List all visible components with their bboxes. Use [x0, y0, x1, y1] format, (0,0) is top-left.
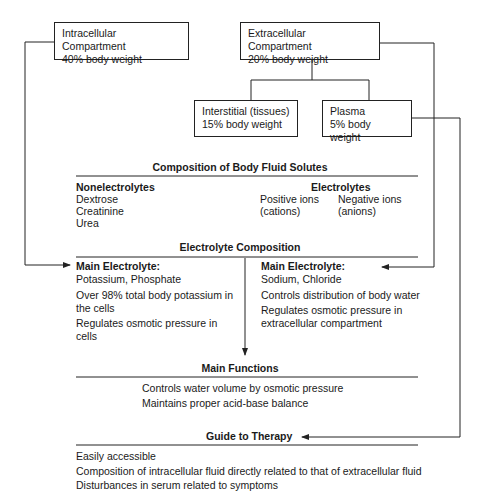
intracellular-main-electrolyte-value: Potassium, Phosphate	[76, 273, 181, 286]
main-function-item: Controls water volume by osmotic pressur…	[142, 382, 343, 395]
therapy-item: Easily accessible	[76, 450, 156, 463]
therapy-item: Disturbances in serum related to symptom…	[76, 479, 278, 492]
plasma-title: Plasma	[330, 105, 404, 118]
intracellular-note: cells	[76, 330, 97, 343]
solutes-heading: Composition of Body Fluid Solutes	[0, 161, 480, 173]
interstitial-subtitle: 15% body weight	[202, 118, 290, 131]
plasma-subtitle: 5% body weight	[330, 118, 404, 144]
extracellular-note: Regulates osmotic pressure in	[261, 304, 402, 317]
anions-label: (anions)	[338, 205, 376, 218]
extracellular-title: Extracellular Compartment	[248, 27, 372, 53]
guide-to-therapy-heading: Guide to Therapy	[206, 430, 292, 442]
extracellular-note: extracellular compartment	[261, 317, 382, 330]
intracellular-note: Over 98% total body potassium in	[76, 289, 233, 302]
intracellular-note: Regulates osmotic pressure in	[76, 317, 217, 330]
extracellular-main-electrolyte-value: Sodium, Chloride	[261, 273, 342, 286]
intracellular-compartment-box: Intracellular Compartment 40% body weigh…	[54, 22, 189, 60]
main-function-item: Maintains proper acid-base balance	[142, 397, 308, 410]
intracellular-main-electrolyte-title: Main Electrolyte:	[76, 260, 160, 273]
intracellular-subtitle: 40% body weight	[62, 53, 181, 66]
plasma-box: Plasma 5% body weight	[322, 100, 412, 137]
therapy-item: Composition of intracellular fluid direc…	[76, 465, 422, 478]
cations-label: (cations)	[260, 205, 300, 218]
intracellular-title: Intracellular Compartment	[62, 27, 181, 53]
extracellular-compartment-box: Extracellular Compartment 20% body weigh…	[240, 22, 380, 60]
extracellular-subtitle: 20% body weight	[248, 53, 372, 66]
extracellular-main-electrolyte-title: Main Electrolyte:	[261, 260, 345, 273]
interstitial-title: Interstitial (tissues)	[202, 105, 290, 118]
nonelectrolyte-item: Urea	[76, 217, 99, 230]
intracellular-note: the cells	[76, 302, 115, 315]
main-functions-heading: Main Functions	[0, 362, 480, 374]
extracellular-note: Controls distribution of body water	[261, 289, 420, 302]
electrolyte-composition-heading: Electrolyte Composition	[0, 241, 480, 253]
interstitial-box: Interstitial (tissues) 15% body weight	[194, 100, 298, 137]
